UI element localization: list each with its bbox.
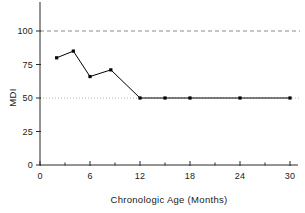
x-axis-tick-label: 24 — [235, 172, 245, 181]
x-axis-tick-label: 18 — [185, 172, 195, 181]
series-line-mdi — [57, 51, 290, 98]
data-point-marker — [288, 96, 291, 99]
data-point-marker — [163, 96, 166, 99]
data-point-marker — [72, 50, 75, 53]
data-point-marker — [88, 75, 91, 78]
x-axis-tick-label: 12 — [135, 172, 145, 181]
x-axis-title: Chronologic Age (Months) — [40, 194, 298, 205]
y-axis-title: MDI — [7, 83, 18, 113]
data-point-marker — [188, 96, 191, 99]
reference-lines — [40, 31, 300, 98]
y-axis-tick-label: 100 — [2, 27, 33, 36]
series-markers-mdi — [55, 50, 292, 100]
chart-container: 0255075100 0612182430 Chronologic Age (M… — [0, 0, 305, 213]
y-axis-tick-label: 25 — [2, 127, 33, 136]
data-point-marker — [238, 96, 241, 99]
chart-plot-svg — [0, 0, 305, 213]
data-point-marker — [109, 68, 112, 71]
y-axis-tick-label: 75 — [2, 60, 33, 69]
data-point-marker — [138, 96, 141, 99]
data-point-marker — [55, 56, 58, 59]
y-axis-tick-label: 0 — [2, 161, 33, 170]
x-axis-tick-label: 0 — [37, 172, 42, 181]
x-axis-tick-label: 30 — [285, 172, 295, 181]
x-axis-tick-label: 6 — [87, 172, 92, 181]
axes — [40, 2, 298, 165]
